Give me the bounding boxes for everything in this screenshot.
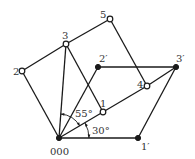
node-label: 3 xyxy=(62,30,68,41)
node-2' xyxy=(95,64,100,69)
nodes xyxy=(19,16,178,140)
node-2 xyxy=(19,68,25,74)
node-3 xyxy=(63,41,69,47)
node-1' xyxy=(135,135,140,140)
node-label: 3′ xyxy=(176,53,185,64)
edge-3-5 xyxy=(66,19,110,44)
node-label: 5 xyxy=(100,9,106,20)
node-3' xyxy=(173,64,178,69)
angle-label: 30° xyxy=(92,125,110,136)
labels: 55°30°000123451′2′3′ xyxy=(13,9,185,157)
arrowhead-icon xyxy=(85,123,88,127)
lattice-diagram: 55°30°000123451′2′3′ xyxy=(0,0,195,159)
edge-3'-1' xyxy=(138,67,176,138)
node-000 xyxy=(56,135,61,140)
edge-3-000 xyxy=(59,44,66,138)
angle-label: 55° xyxy=(75,108,93,119)
edge-2-3 xyxy=(22,44,66,71)
node-1 xyxy=(100,109,106,115)
node-label: 4 xyxy=(137,79,143,90)
node-label: 000 xyxy=(50,146,69,157)
edges xyxy=(22,19,176,138)
edge-000-2 xyxy=(22,71,59,138)
node-4 xyxy=(144,83,150,89)
diagram-canvas: 55°30°000123451′2′3′ xyxy=(0,0,195,159)
node-label: 2′ xyxy=(99,53,108,64)
node-label: 2 xyxy=(13,66,19,77)
edge-5-4 xyxy=(110,19,147,86)
node-label: 1′ xyxy=(141,141,150,152)
node-5 xyxy=(107,16,113,22)
edge-3-1 xyxy=(66,44,103,112)
node-label: 1 xyxy=(100,98,106,109)
